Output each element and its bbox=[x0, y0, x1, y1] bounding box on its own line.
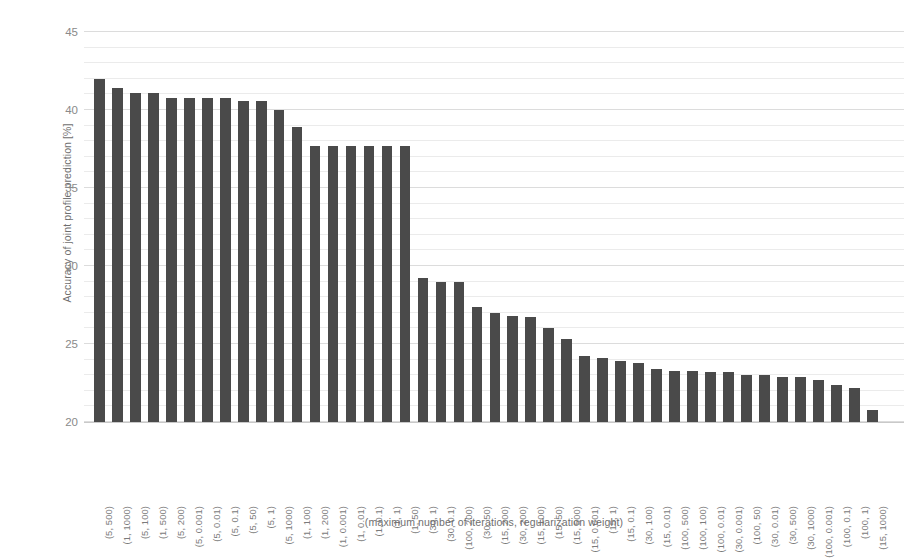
bar bbox=[112, 88, 123, 422]
bar bbox=[364, 146, 375, 422]
x-axis-ticks: (5, 500)(1, 1000)(5, 100)(1, 500)(5, 200… bbox=[84, 424, 904, 510]
y-tick-label: 30 bbox=[44, 260, 78, 272]
bar bbox=[867, 410, 878, 422]
bar bbox=[669, 371, 680, 422]
bar bbox=[454, 282, 465, 422]
bar bbox=[759, 375, 770, 422]
bar bbox=[831, 385, 842, 422]
x-tick-label: (100, 0.01) bbox=[715, 506, 726, 552]
bar bbox=[184, 98, 195, 422]
bar bbox=[633, 363, 644, 422]
bar bbox=[274, 110, 285, 422]
bar bbox=[238, 101, 249, 422]
bar bbox=[472, 307, 483, 422]
y-tick-label: 35 bbox=[44, 182, 78, 194]
bar bbox=[507, 316, 518, 422]
bar bbox=[597, 358, 608, 422]
y-tick-label: 20 bbox=[44, 416, 78, 428]
bar bbox=[705, 372, 716, 422]
x-tick-label: (30, 0.001) bbox=[733, 506, 744, 552]
bar bbox=[256, 101, 267, 422]
x-axis-line bbox=[84, 422, 904, 423]
bar bbox=[615, 361, 626, 422]
bar bbox=[436, 282, 447, 422]
bar bbox=[579, 356, 590, 422]
bar bbox=[346, 146, 357, 422]
y-tick-label: 45 bbox=[44, 26, 78, 38]
bar bbox=[94, 79, 105, 422]
bar-series bbox=[84, 32, 904, 422]
bar bbox=[292, 127, 303, 422]
bar bbox=[795, 377, 806, 422]
bar bbox=[130, 93, 141, 422]
bar bbox=[220, 98, 231, 422]
bar bbox=[561, 339, 572, 422]
bar bbox=[418, 278, 429, 422]
bar bbox=[400, 146, 411, 422]
bar bbox=[777, 377, 788, 422]
bar bbox=[849, 388, 860, 422]
bar bbox=[723, 372, 734, 422]
bar bbox=[166, 98, 177, 422]
x-tick-label: (15, 0.001) bbox=[589, 506, 600, 552]
bar bbox=[687, 371, 698, 422]
bar bbox=[543, 328, 554, 422]
y-tick-label: 25 bbox=[44, 338, 78, 350]
plot-area bbox=[84, 32, 904, 422]
bar bbox=[382, 146, 393, 422]
bar bbox=[651, 369, 662, 422]
y-axis-ticks: 202530354045 bbox=[36, 32, 78, 422]
y-tick-label: 40 bbox=[44, 104, 78, 116]
x-tick-label: (100, 0.001) bbox=[823, 506, 834, 558]
bar bbox=[813, 380, 824, 422]
bar bbox=[202, 98, 213, 422]
bar bbox=[525, 317, 536, 422]
bar bbox=[310, 146, 321, 422]
bar bbox=[148, 93, 159, 422]
bar bbox=[490, 313, 501, 422]
bar bbox=[741, 375, 752, 422]
x-axis-title: (maximum number of iterations, regulariz… bbox=[84, 516, 904, 528]
bar bbox=[328, 146, 339, 422]
